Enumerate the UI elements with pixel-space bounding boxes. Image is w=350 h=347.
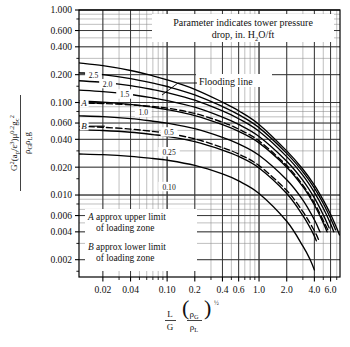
x-tick-label: 0.10 <box>159 284 176 295</box>
x-title-rho-g-sub: G <box>194 313 199 320</box>
y-title-paren: (a <box>9 154 19 161</box>
parameter-note-line1: Parameter indicates tower pressure <box>173 17 313 28</box>
y-tick-label: 0.600 <box>50 25 72 36</box>
note-a-rest: approx upper limit <box>94 212 167 222</box>
y-title-close-mu: )μ <box>9 133 19 141</box>
curve-label-2-5: 2.5 <box>89 71 99 80</box>
x-tick-label: 2.0 <box>281 284 293 295</box>
y-tick-label: 0.004 <box>50 226 72 237</box>
x-tick-label: 1.0 <box>253 284 265 295</box>
curve-label-1-0: 1.0 <box>139 108 149 117</box>
curve-label-2-0: 2.0 <box>103 80 113 89</box>
y-tick-label: 0.200 <box>50 69 72 80</box>
y-tick-label: 0.100 <box>50 97 72 108</box>
note-a-line1: A approx upper limit <box>87 212 166 222</box>
parameter-note: Parameter indicates tower pressure drop,… <box>152 14 334 42</box>
note-b-rest: approx lower limit <box>94 242 167 252</box>
x-tick-label: 6.0 <box>325 284 337 295</box>
parameter-note-line2-pre: drop, in. H <box>212 29 255 40</box>
chart-svg: 2.52.01.51.00.50.250.10AB 0.020.040.100.… <box>0 0 350 347</box>
parameter-note-line2-post: O/ft <box>258 29 274 40</box>
curve-label-A: A <box>80 98 87 108</box>
y-title-gc-exp: 2 <box>8 115 15 118</box>
curve-label-0-25: 0.25 <box>162 148 175 157</box>
x-tick-label: 0.04 <box>122 284 139 295</box>
y-title-g: g <box>22 131 32 136</box>
note-a-line2: of loading zone <box>96 223 154 233</box>
curve-label-1-5: 1.5 <box>120 90 130 99</box>
y-tick-label: 0.060 <box>50 117 72 128</box>
curve-label-B: B <box>81 121 87 131</box>
note-b-line2: of loading zone <box>96 253 154 263</box>
loading-zone-notes: A approx upper limit of loading zone B a… <box>85 209 197 271</box>
x-title-denominator: G <box>167 322 174 332</box>
x-tick-label: 0.4 <box>216 284 228 295</box>
y-tick-label: 1.000 <box>50 4 72 15</box>
flooding-line-label: Flooding line <box>199 76 253 87</box>
x-tick-label: 0.2 <box>189 284 201 295</box>
note-b-line1: B approx lower limit <box>88 242 166 252</box>
y-tick-label: 0.006 <box>50 210 72 221</box>
parameter-note-line2: drop, in. H2O/ft <box>212 29 275 42</box>
x-tick-label: 4.0 <box>308 284 320 295</box>
x-title-exponent: ½ <box>214 299 219 306</box>
curve-label-0-10: 0.10 <box>162 183 175 192</box>
y-tick-label: 0.010 <box>50 189 72 200</box>
y-title-denominator: ρGρLg <box>22 131 33 154</box>
x-title-numerator: L <box>167 309 173 319</box>
y-tick-label: 0.040 <box>50 134 72 145</box>
y-tick-label: 0.002 <box>50 254 72 265</box>
x-title-paren-open: ( <box>182 295 189 320</box>
x-title-rho-l-sub: L <box>194 326 198 333</box>
x-title-paren-close: ) <box>204 295 211 320</box>
gpdc-chart-figure: 2.52.01.51.00.50.250.10AB 0.020.040.100.… <box>0 0 350 347</box>
x-tick-label: 0.6 <box>233 284 245 295</box>
y-title-mu-exp: 0.2 <box>8 126 15 134</box>
y-tick-label: 0.400 <box>50 41 72 52</box>
y-tick-label: 0.020 <box>50 162 72 173</box>
curve-label-0-5: 0.5 <box>164 128 174 137</box>
y-axis-tick-labels: 1.0000.6000.4000.2000.1000.0600.0400.020… <box>50 4 72 265</box>
x-tick-label: 0.02 <box>94 284 111 295</box>
